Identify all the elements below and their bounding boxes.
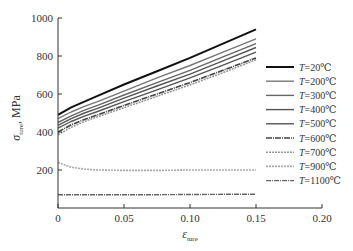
x-tick-label: 0.05 [114, 212, 134, 224]
y-label-sub: ture [17, 124, 25, 135]
y-label-unit: , MPa [9, 95, 23, 124]
y-tick-label: 400 [37, 126, 54, 138]
series-line-0 [58, 29, 256, 115]
x-tick-label: 0.10 [180, 212, 200, 224]
legend-label: T=1100℃ [299, 175, 341, 186]
x-label-sub: ture [187, 235, 198, 243]
legend-label: T=900℃ [299, 161, 336, 172]
y-axis-label: σture, MPa [9, 95, 25, 141]
y-tick-label: 600 [37, 88, 54, 100]
y-ticks: 2004006008001000 [31, 12, 62, 176]
y-tick-label: 200 [37, 164, 54, 176]
series-line-1 [58, 39, 256, 119]
x-tick-label: 0.15 [246, 212, 266, 224]
legend-label: T=500℃ [299, 118, 336, 129]
x-ticks: 00.050.100.150.20 [55, 204, 332, 224]
x-tick-label: 0.20 [312, 212, 332, 224]
x-tick-label: 0 [55, 212, 61, 224]
series-line-2 [58, 44, 256, 123]
plot-lines [58, 29, 256, 194]
series-line-4 [58, 52, 256, 128]
legend-label: T=20℃ [299, 62, 331, 73]
series-line-3 [58, 48, 256, 126]
y-tick-label: 800 [37, 50, 54, 62]
y-tick-label: 1000 [31, 12, 54, 24]
legend-label: T=200℃ [299, 76, 336, 87]
series-line-7 [58, 162, 256, 170]
legend-label: T=700℃ [299, 147, 336, 158]
legend-label: T=300℃ [299, 90, 336, 101]
series-line-5 [58, 58, 256, 132]
legend-label: T=600℃ [299, 133, 336, 144]
svg-text:σture, MPa: σture, MPa [9, 95, 25, 141]
x-axis-label: εture [182, 227, 198, 243]
legend-label: T=400℃ [299, 104, 336, 115]
stress-strain-chart: 2004006008001000 00.050.100.150.20 σture… [0, 0, 353, 251]
legend: T=20℃T=200℃T=300℃T=400℃T=500℃T=600℃T=700… [266, 62, 341, 187]
